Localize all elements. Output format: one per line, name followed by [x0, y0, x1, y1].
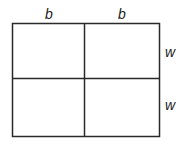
outer-rectangle [13, 24, 160, 137]
right-label-top: w [165, 44, 176, 60]
top-label-right: b [118, 6, 126, 22]
grid-diagram: b b w w [0, 0, 185, 144]
top-label-left: b [45, 6, 53, 22]
right-label-bottom: w [165, 97, 176, 113]
